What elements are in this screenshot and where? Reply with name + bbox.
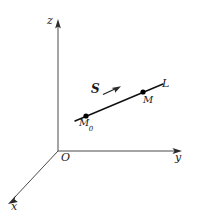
point-m0-label: M0 [79,118,94,131]
vector-s-label: S [91,83,100,95]
z-axis-label: z [47,15,53,26]
y-axis-label: y [175,152,181,163]
y-axis [58,148,182,154]
coordinate-diagram-svg [0,0,197,224]
x-axis [8,151,58,204]
x-axis-label: x [11,201,17,212]
point-m0-label-subscript: 0 [89,125,93,133]
x-axis-line [14,151,58,198]
direction-vector-s [103,86,121,94]
vector-s-shaft [103,89,116,95]
point-m-label: M [143,95,153,105]
line-l-label: L [162,78,169,89]
point-m0-label-base: M [79,117,89,128]
figure-canvas: z y x O L M0 M S [0,0,197,224]
z-axis [55,19,61,151]
origin-label: O [61,152,70,163]
